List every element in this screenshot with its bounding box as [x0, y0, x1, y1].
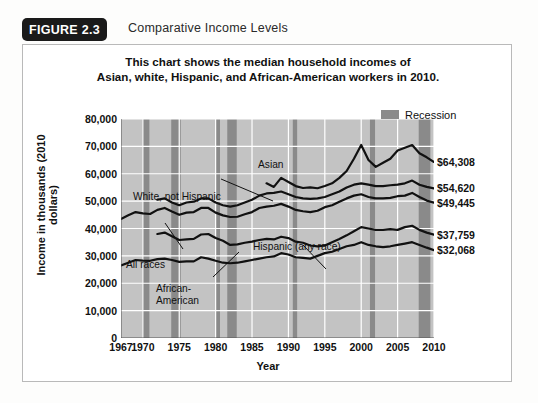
x-tick-label: 1995	[313, 341, 336, 353]
figure-header: FIGURE 2.3 Comparative Income Levels	[22, 18, 512, 44]
y-tick-label: 80,000	[85, 113, 117, 125]
x-tick-label: 1980	[204, 341, 227, 353]
x-tick-label: 2005	[386, 341, 409, 353]
annotation-asian: Asian	[258, 159, 283, 171]
chart-subtitle: This chart shows the median household in…	[23, 54, 513, 84]
y-tick-label: 10,000	[85, 305, 117, 317]
y-tick-label: 30,000	[85, 250, 117, 262]
series-end-label: $54,620	[437, 182, 475, 194]
figure-page: FIGURE 2.3 Comparative Income Levels Thi…	[0, 0, 538, 403]
annotation-african-american-line1: African-	[156, 283, 199, 295]
x-tick-label: 1990	[277, 341, 300, 353]
y-tick-label: 70,000	[85, 140, 117, 152]
figure-number-badge: FIGURE 2.3	[22, 18, 107, 41]
y-tick-label: 50,000	[85, 195, 117, 207]
chart-subtitle-line2: Asian, white, Hispanic, and African-Amer…	[23, 69, 513, 84]
x-tick-label: 2010	[422, 341, 445, 353]
series-end-label: $32,068	[437, 244, 475, 256]
y-tick-label: 40,000	[85, 223, 117, 235]
figure-title: Comparative Income Levels	[128, 21, 288, 35]
series-end-label: $49,445	[437, 197, 475, 209]
y-axis-tick-labels: 010,00020,00030,00040,00050,00060,00070,…	[61, 119, 117, 338]
series-end-label: $64,308	[437, 156, 475, 168]
x-tick-label: 2000	[350, 341, 373, 353]
series-end-value-labels: $64,308$54,620$49,445$37,759$32,068	[437, 119, 513, 338]
annotation-all-races: All races	[126, 259, 165, 271]
y-axis-title: Income in thousands (2010 dollars)	[35, 115, 59, 295]
x-axis-title: Year	[23, 360, 513, 372]
y-tick-label: 60,000	[85, 168, 117, 180]
chart-subtitle-line1: This chart shows the median household in…	[23, 54, 513, 69]
x-tick-label: 1970	[131, 341, 154, 353]
x-axis-tick-labels: 1967197019751980198519901995200020052010	[121, 341, 434, 357]
x-tick-label: 1975	[168, 341, 191, 353]
y-tick-label: 20,000	[85, 277, 117, 289]
chart-frame: This chart shows the median household in…	[22, 44, 512, 382]
annotation-hispanic: Hispanic (any race)	[253, 241, 341, 253]
annotation-african-american: African- American	[156, 283, 199, 307]
series-end-label: $37,759	[437, 229, 475, 241]
annotation-african-american-line2: American	[156, 295, 199, 307]
x-tick-label: 1985	[240, 341, 263, 353]
x-tick-label: 1967	[109, 341, 132, 353]
annotation-white-not-hispanic: White, not Hispanic	[133, 191, 221, 203]
